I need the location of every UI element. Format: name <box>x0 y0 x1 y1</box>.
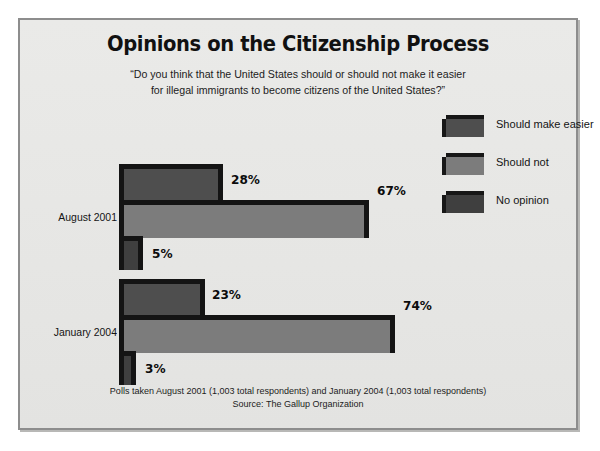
bar-value-2004-should-make-easier: 23% <box>212 287 241 302</box>
footnote-line-2: Source: The Gallup Organization <box>60 397 536 410</box>
bar-value-2001-should-not: 67% <box>377 183 406 198</box>
bar-2004-should-make-easier[interactable] <box>119 279 205 312</box>
category-label-august-2001: August 2001 <box>30 211 117 223</box>
bar-2004-no-opinion[interactable] <box>119 351 136 380</box>
bar-2001-should-make-easier[interactable] <box>119 164 223 197</box>
chart-plot-area: August 2001 28% 67% <box>20 20 580 432</box>
chart-frame: Opinions on the Citizenship Process “Do … <box>18 18 578 430</box>
bar-2004-should-not[interactable] <box>119 315 395 348</box>
chart-footnote: Polls taken August 2001 (1,003 total res… <box>60 384 536 410</box>
bar-2001-no-opinion[interactable] <box>119 236 143 265</box>
bar-value-2004-should-not: 74% <box>403 298 432 313</box>
chart-canvas: Opinions on the Citizenship Process “Do … <box>20 20 576 428</box>
bar-2001-should-not[interactable] <box>119 200 369 233</box>
category-label-january-2004: January 2004 <box>30 326 117 338</box>
footnote-line-1: Polls taken August 2001 (1,003 total res… <box>60 384 536 397</box>
bar-value-2001-no-opinion: 5% <box>152 246 173 261</box>
bar-value-2001-should-make-easier: 28% <box>231 172 260 187</box>
bar-value-2004-no-opinion: 3% <box>145 361 166 376</box>
